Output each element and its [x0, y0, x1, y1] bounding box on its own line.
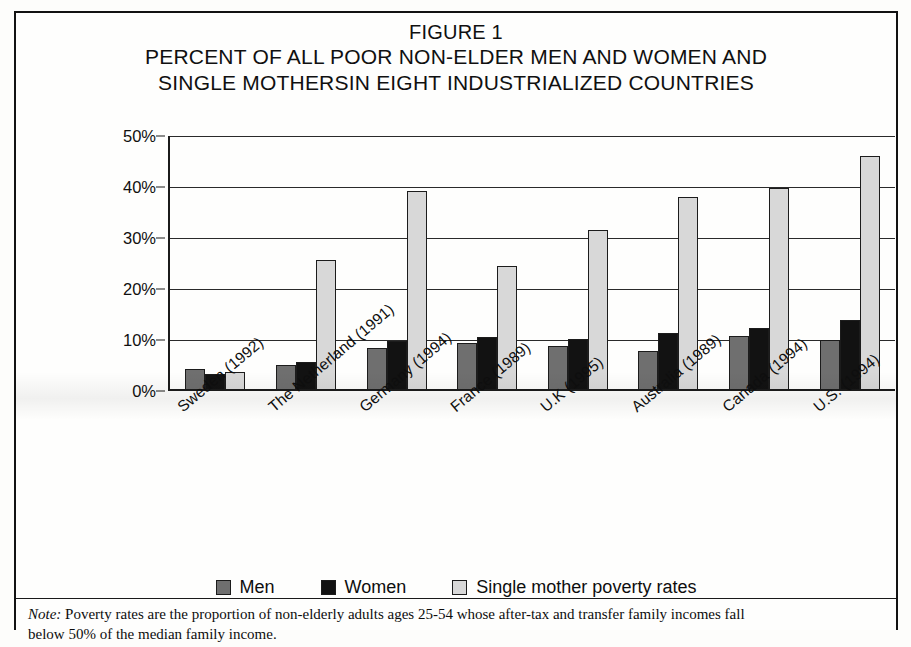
y-tick-label: 30% [123, 229, 156, 248]
y-axis-ticks: 0%10%20%30%40%50% [110, 118, 162, 392]
footnote-divider [16, 598, 896, 599]
legend-item: Single mother poverty rates [452, 577, 696, 598]
y-tick-mark [156, 136, 165, 137]
y-tick-mark [156, 391, 165, 392]
footnote: Note: Poverty rates are the proportion o… [28, 605, 888, 645]
chart-legend: MenWomenSingle mother poverty rates [14, 577, 898, 598]
footnote-line-2: below 50% of the median family income. [28, 625, 888, 645]
legend-swatch-icon [452, 580, 467, 595]
legend-swatch-icon [216, 580, 231, 595]
legend-label: Men [240, 577, 275, 598]
legend-item: Women [321, 577, 407, 598]
x-axis-category-labels: Sweden (1992)The Netherland (1991)German… [154, 396, 881, 526]
y-tick-mark [156, 340, 165, 341]
y-tick-label: 10% [123, 331, 156, 350]
legend-label: Single mother poverty rates [476, 577, 696, 598]
y-tick-label: 50% [123, 127, 156, 146]
y-tick-mark [156, 187, 165, 188]
figure-page: FIGURE 1 PERCENT OF ALL POOR NON-ELDER M… [0, 0, 911, 647]
figure-title-block: FIGURE 1 PERCENT OF ALL POOR NON-ELDER M… [14, 20, 898, 96]
y-tick-mark [156, 289, 165, 290]
y-tick-label: 40% [123, 178, 156, 197]
bar-group [533, 136, 624, 389]
legend-label: Women [345, 577, 407, 598]
y-tick-label: 0% [132, 382, 156, 401]
legend-item: Men [216, 577, 275, 598]
footnote-text: Poverty rates are the proportion of non-… [61, 606, 744, 622]
figure-title-line-1: PERCENT OF ALL POOR NON-ELDER MEN AND WO… [14, 44, 898, 70]
figure-title-line-2: SINGLE MOTHERSIN EIGHT INDUSTRIALIZED CO… [14, 70, 898, 96]
legend-swatch-icon [321, 580, 336, 595]
figure-number: FIGURE 1 [14, 20, 898, 44]
y-tick-mark [156, 238, 165, 239]
bar-group [804, 136, 895, 389]
footnote-lead: Note: [28, 606, 61, 622]
y-tick-label: 20% [123, 280, 156, 299]
